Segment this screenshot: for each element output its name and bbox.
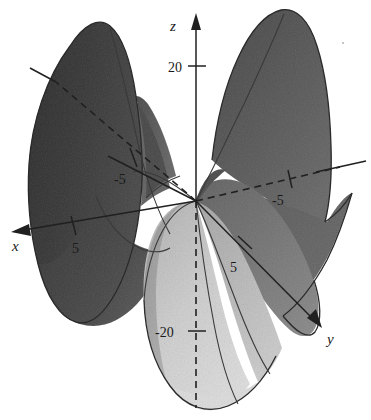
tick-label-y-minus-5: -5 (272, 193, 284, 208)
tick-label-z-20: 20 (168, 60, 182, 75)
surface-plot-figure: z x y 20 -20 5 -5 5 -5 (0, 0, 371, 420)
tick-label-x-5: 5 (72, 241, 79, 256)
y-axis-label: y (325, 331, 334, 347)
tick-label-z-minus-20: -20 (155, 325, 174, 340)
tick-label-y-5: 5 (230, 260, 237, 275)
tick-label-x-minus-5: -5 (114, 172, 126, 187)
scan-speck (342, 42, 344, 44)
surface-plot-canvas: z x y 20 -20 5 -5 5 -5 (0, 0, 371, 420)
z-axis-label: z (169, 18, 176, 34)
x-axis-label: x (11, 238, 19, 254)
